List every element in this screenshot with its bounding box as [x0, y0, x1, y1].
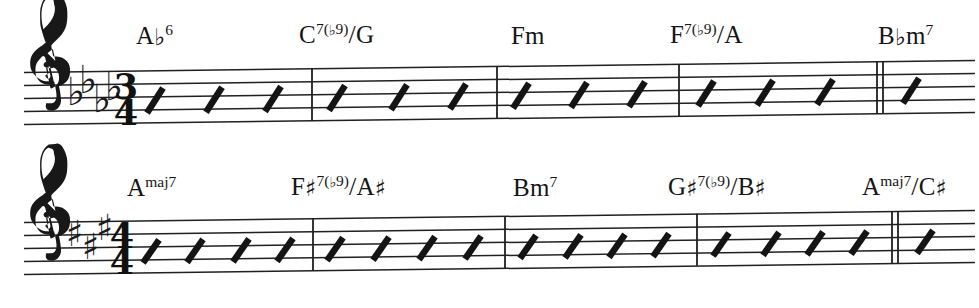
staff-lines	[24, 211, 975, 275]
staff-1: ♭ ♭ ♭ ♭ 3 4	[0, 0, 979, 150]
treble-clef-icon	[30, 0, 70, 111]
lead-sheet: A♭6 C7(♭9)/G Fm F7(♭9)/A B♭m7 ♭ ♭ ♭	[0, 0, 979, 308]
sharp-icon: ♯	[66, 212, 83, 254]
staff-system-1: A♭6 C7(♭9)/G Fm F7(♭9)/A B♭m7 ♭ ♭ ♭	[0, 0, 979, 150]
staff-system-2: Amaj7 F♯7(♭9)/A♯ Bm7 G♯7(♭9)/B♯ Amaj7/C♯…	[0, 150, 979, 308]
key-signature-sharps: ♯ ♯ ♯	[66, 206, 113, 267]
time-signature: 4 4	[110, 215, 134, 282]
time-signature: 3 4	[114, 66, 138, 133]
time-signature-denominator: 4	[110, 241, 134, 282]
time-signature-denominator: 4	[114, 92, 138, 133]
treble-clef-icon	[30, 144, 70, 261]
staff-2: ♯ ♯ ♯ 4 4	[0, 150, 979, 308]
staff-lines	[24, 61, 975, 125]
